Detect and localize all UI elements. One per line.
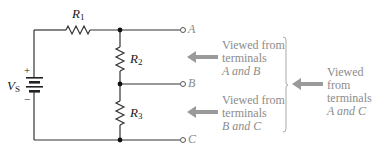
terminal-a-icon: [181, 28, 186, 33]
arrow-left-icon: [187, 51, 218, 63]
terminal-c-label: C: [188, 132, 196, 147]
annotation-bc: Viewed from terminals B and C: [222, 94, 285, 133]
node-top: [118, 28, 123, 33]
label-r1: R1: [72, 6, 84, 22]
node-middle: [118, 82, 123, 87]
terminal-b-label: B: [188, 76, 195, 91]
terminal-a-label: A: [188, 22, 195, 37]
label-minus: −: [24, 93, 30, 105]
terminal-c-icon: [181, 138, 186, 143]
annotation-ac: Viewed from terminals A and C: [327, 66, 389, 118]
node-bottom: [118, 138, 123, 143]
annotation-ab: Viewed from terminals A and B: [222, 39, 285, 78]
battery-symbol: [26, 77, 43, 93]
terminal-b-icon: [181, 82, 186, 87]
label-r3: R3: [130, 105, 142, 121]
resistor-r3-symbol: [116, 101, 124, 125]
resistor-r1-symbol: [66, 26, 90, 34]
label-vs: VS: [7, 78, 20, 94]
resistor-r2-symbol: [116, 47, 124, 71]
label-plus: +: [24, 64, 30, 76]
arrow-left-icon: [292, 78, 323, 90]
label-r2: R2: [130, 51, 142, 67]
arrow-left-icon: [187, 106, 218, 118]
